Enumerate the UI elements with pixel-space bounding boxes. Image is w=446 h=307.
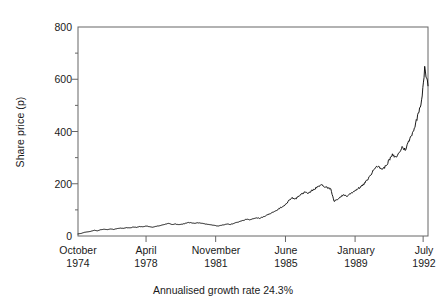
x-tick-marks	[146, 236, 423, 242]
x-axis-tick-labels: October 1974 April 1978 November 1981 Ju…	[0, 244, 446, 278]
x-tick-month: July	[412, 244, 435, 257]
x-tick-month: January	[337, 244, 374, 257]
share-price-line	[78, 66, 428, 234]
x-tick-label-4: January 1989	[337, 244, 374, 270]
x-tick-month: June	[274, 244, 297, 257]
x-tick-month: October	[59, 244, 96, 257]
x-tick-label-1: April 1978	[134, 244, 157, 270]
x-tick-label-0: October 1974	[59, 244, 96, 270]
y-tick-label-600: 600	[28, 74, 72, 85]
y-tick-label-200: 200	[28, 179, 72, 190]
x-tick-month: November	[192, 244, 240, 257]
x-tick-year: 1981	[192, 257, 240, 270]
y-tick-label-400: 400	[28, 127, 72, 138]
x-tick-label-3: June 1985	[274, 244, 297, 270]
x-tick-year: 1978	[134, 257, 157, 270]
x-tick-year: 1974	[59, 257, 96, 270]
share-price-chart: Share price (p) 800 600 400 200 0 Octobe…	[0, 0, 446, 307]
x-tick-year: 1989	[337, 257, 374, 270]
x-tick-label-5: July 1992	[412, 244, 435, 270]
x-tick-year: 1985	[274, 257, 297, 270]
chart-caption: Annualised growth rate 24.3%	[0, 284, 446, 296]
y-tick-label-0: 0	[28, 231, 72, 242]
y-tick-marks	[72, 53, 78, 210]
x-tick-month: April	[134, 244, 157, 257]
y-axis-title-text: Share price (p)	[14, 96, 26, 167]
x-tick-label-2: November 1981	[192, 244, 240, 270]
axes-frame	[78, 27, 428, 236]
y-tick-label-800: 800	[28, 22, 72, 33]
x-tick-year: 1992	[412, 257, 435, 270]
